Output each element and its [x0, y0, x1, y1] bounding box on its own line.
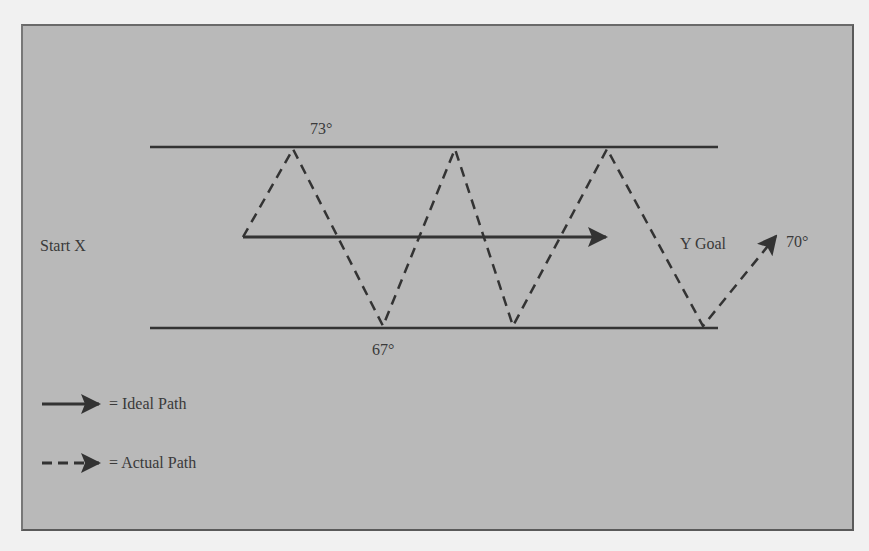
lower-temp-label: 67°: [372, 342, 394, 358]
legend-ideal-label: = Ideal Path: [109, 396, 186, 412]
start-label: Start X: [40, 238, 86, 254]
upper-temp-label: 73°: [310, 121, 332, 137]
final-temp-label: 70°: [786, 234, 808, 250]
legend-actual-label: = Actual Path: [109, 455, 196, 471]
goal-label: Y Goal: [680, 236, 726, 252]
